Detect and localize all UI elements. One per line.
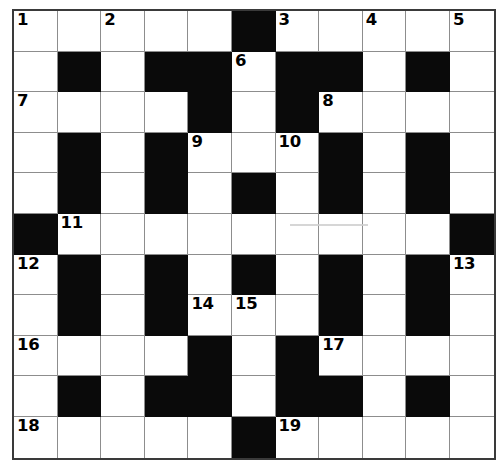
letter-cell[interactable] <box>276 255 320 296</box>
letter-cell[interactable]: 12 <box>14 255 58 296</box>
letter-cell[interactable] <box>406 417 450 458</box>
clue-number: 16 <box>17 336 39 355</box>
letter-cell[interactable] <box>101 133 145 174</box>
letter-cell[interactable] <box>145 214 189 255</box>
letter-cell[interactable] <box>319 11 363 52</box>
crossword-grid[interactable]: 12345678910111213141516171819 <box>12 9 496 460</box>
letter-cell[interactable] <box>58 417 102 458</box>
letter-cell[interactable] <box>188 11 232 52</box>
letter-cell[interactable] <box>363 214 407 255</box>
letter-cell[interactable] <box>450 376 494 417</box>
letter-cell[interactable] <box>101 214 145 255</box>
letter-cell[interactable] <box>14 173 58 214</box>
letter-cell[interactable] <box>406 336 450 377</box>
letter-cell[interactable] <box>363 173 407 214</box>
letter-cell[interactable] <box>145 336 189 377</box>
letter-cell[interactable] <box>363 336 407 377</box>
letter-cell[interactable]: 14 <box>188 295 232 336</box>
letter-cell[interactable] <box>363 133 407 174</box>
letter-cell[interactable] <box>276 173 320 214</box>
letter-cell[interactable] <box>145 417 189 458</box>
letter-cell[interactable] <box>14 295 58 336</box>
letter-cell[interactable] <box>101 336 145 377</box>
letter-cell[interactable]: 15 <box>232 295 276 336</box>
letter-cell[interactable]: 10 <box>276 133 320 174</box>
letter-cell[interactable]: 2 <box>101 11 145 52</box>
block-cell <box>406 255 450 296</box>
letter-cell[interactable] <box>101 173 145 214</box>
block-cell <box>406 173 450 214</box>
letter-cell[interactable] <box>58 92 102 133</box>
letter-cell[interactable] <box>101 295 145 336</box>
letter-cell[interactable]: 1 <box>14 11 58 52</box>
letter-cell[interactable] <box>406 92 450 133</box>
block-cell <box>406 295 450 336</box>
letter-cell[interactable] <box>319 214 363 255</box>
letter-cell[interactable] <box>188 417 232 458</box>
letter-cell[interactable]: 16 <box>14 336 58 377</box>
block-cell <box>319 173 363 214</box>
letter-cell[interactable]: 5 <box>450 11 494 52</box>
clue-number: 14 <box>191 295 213 314</box>
letter-cell[interactable] <box>58 336 102 377</box>
clue-number: 10 <box>279 133 301 152</box>
letter-cell[interactable]: 7 <box>14 92 58 133</box>
letter-cell[interactable] <box>14 133 58 174</box>
letter-cell[interactable] <box>14 376 58 417</box>
letter-cell[interactable] <box>188 214 232 255</box>
block-cell <box>188 336 232 377</box>
letter-cell[interactable] <box>145 92 189 133</box>
letter-cell[interactable] <box>232 133 276 174</box>
letter-cell[interactable]: 11 <box>58 214 102 255</box>
letter-cell[interactable]: 17 <box>319 336 363 377</box>
letter-cell[interactable]: 18 <box>14 417 58 458</box>
letter-cell[interactable] <box>188 255 232 296</box>
letter-cell[interactable] <box>101 376 145 417</box>
letter-cell[interactable]: 8 <box>319 92 363 133</box>
letter-cell[interactable] <box>450 295 494 336</box>
clue-number: 18 <box>17 417 39 436</box>
letter-cell[interactable] <box>188 173 232 214</box>
letter-cell[interactable] <box>363 376 407 417</box>
block-cell <box>145 295 189 336</box>
letter-cell[interactable] <box>101 417 145 458</box>
letter-cell[interactable] <box>145 11 189 52</box>
clue-number: 4 <box>366 11 377 30</box>
letter-cell[interactable]: 13 <box>450 255 494 296</box>
letter-cell[interactable]: 3 <box>276 11 320 52</box>
letter-cell[interactable] <box>363 417 407 458</box>
letter-cell[interactable] <box>58 11 102 52</box>
clue-number: 6 <box>235 52 246 71</box>
crossword-puzzle: 12345678910111213141516171819 <box>0 0 496 465</box>
letter-cell[interactable] <box>232 92 276 133</box>
letter-cell[interactable] <box>450 417 494 458</box>
letter-cell[interactable] <box>232 376 276 417</box>
letter-cell[interactable] <box>406 11 450 52</box>
letter-cell[interactable] <box>101 52 145 93</box>
clue-number: 12 <box>17 255 39 274</box>
letter-cell[interactable] <box>363 295 407 336</box>
letter-cell[interactable] <box>101 92 145 133</box>
letter-cell[interactable] <box>101 255 145 296</box>
letter-cell[interactable] <box>363 255 407 296</box>
letter-cell[interactable] <box>406 214 450 255</box>
letter-cell[interactable]: 19 <box>276 417 320 458</box>
letter-cell[interactable]: 9 <box>188 133 232 174</box>
letter-cell[interactable] <box>363 92 407 133</box>
letter-cell[interactable] <box>450 336 494 377</box>
letter-cell[interactable] <box>363 52 407 93</box>
letter-cell[interactable] <box>319 417 363 458</box>
block-cell <box>276 92 320 133</box>
letter-cell[interactable] <box>450 173 494 214</box>
letter-cell[interactable]: 4 <box>363 11 407 52</box>
letter-cell[interactable] <box>450 133 494 174</box>
letter-cell[interactable]: 6 <box>232 52 276 93</box>
letter-cell[interactable] <box>450 92 494 133</box>
letter-cell[interactable] <box>276 214 320 255</box>
letter-cell[interactable] <box>450 52 494 93</box>
letter-cell[interactable] <box>232 214 276 255</box>
letter-cell[interactable] <box>14 52 58 93</box>
block-cell <box>232 11 276 52</box>
letter-cell[interactable] <box>232 336 276 377</box>
letter-cell[interactable] <box>276 295 320 336</box>
